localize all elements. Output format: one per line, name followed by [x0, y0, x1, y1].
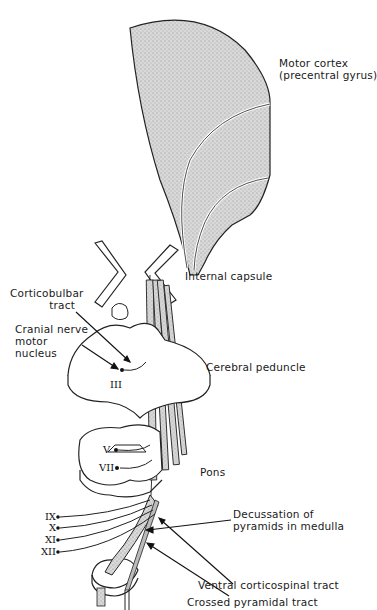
motor-cortex-shape — [130, 20, 270, 275]
cranial-nerve-ix: IX — [40, 511, 56, 522]
label-ventral-corticospinal-tract: Ventral corticospinal tract — [198, 579, 339, 591]
cranial-nerve-vii: VII — [99, 462, 114, 473]
cranial-nerve-xii: XII — [36, 546, 56, 557]
label-corticobulbar-tract: Corticobulbar tract — [10, 287, 75, 311]
cranial-nerve-x: X — [40, 522, 56, 533]
label-cranial-nerve-motor-nucleus: Cranial nerve motor nucleus — [15, 323, 88, 359]
label-pons: Pons — [200, 466, 225, 478]
cranial-nerve-xi: XI — [40, 534, 56, 545]
cranial-nerve-v: V — [103, 444, 110, 455]
label-internal-capsule: Internal capsule — [185, 270, 272, 282]
label-decussation: Decussation of pyramids in medulla — [233, 508, 344, 532]
cerebral-peduncle-shape — [68, 303, 210, 418]
cranial-nerve-iii: III — [110, 379, 122, 390]
label-motor-cortex-line1: Motor cortex — [279, 57, 377, 69]
label-motor-cortex: Motor cortex (precentral gyrus) — [279, 57, 377, 81]
label-cerebral-peduncle: Cerebral peduncle — [206, 361, 306, 373]
pons-shape — [79, 425, 162, 497]
label-crossed-pyramidal-tract: Crossed pyramidal tract — [187, 596, 318, 608]
label-motor-cortex-line2: (precentral gyrus) — [279, 69, 377, 81]
